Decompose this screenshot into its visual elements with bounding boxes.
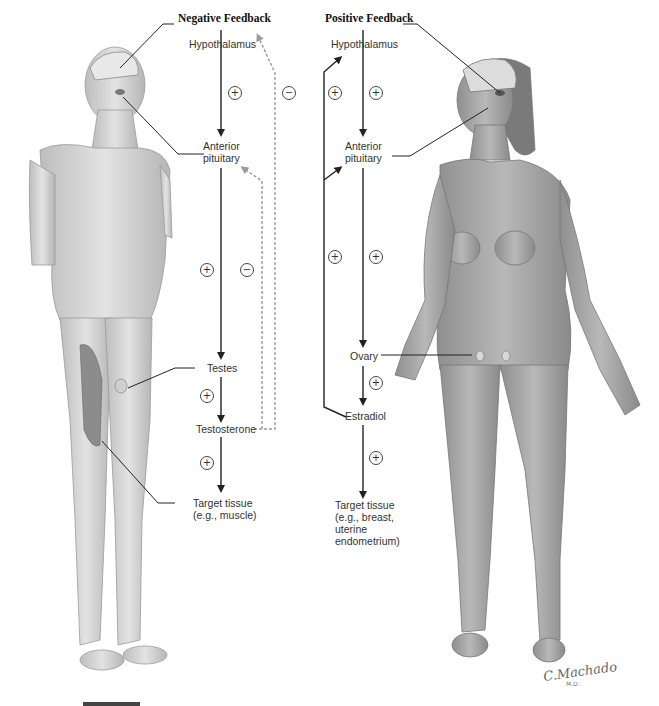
pos-plus-feedback-lower: + bbox=[328, 250, 342, 264]
pos-estradiol-label: Estradiol bbox=[345, 410, 386, 423]
male-figure bbox=[29, 47, 172, 670]
pos-plus-feedback-upper: + bbox=[328, 86, 342, 100]
negative-feedback-title: Negative Feedback bbox=[178, 12, 271, 24]
diagram-graphics bbox=[0, 0, 659, 706]
pos-target-label-3: uterine bbox=[335, 523, 367, 536]
neg-plus-testes-testosterone: + bbox=[200, 389, 214, 403]
neg-target-label-1: Target tissue bbox=[193, 497, 253, 510]
pos-target-label-2: (e.g., breast, bbox=[335, 511, 394, 524]
pos-anterior-label: Anterior bbox=[345, 140, 382, 153]
neg-testes-label: Testes bbox=[207, 362, 237, 375]
neg-hypothalamus-label: Hypothalamus bbox=[189, 38, 256, 51]
pos-hypothalamus-label: Hypothalamus bbox=[331, 38, 398, 51]
female-ovary-right bbox=[502, 351, 510, 361]
neg-minus-to-hypothalamus: − bbox=[282, 86, 296, 100]
pos-plus-ovary-estradiol: + bbox=[369, 376, 383, 390]
male-hypothalamus-marker bbox=[115, 89, 125, 95]
feedback-diagram: Negative Feedback Positive Feedback Hypo… bbox=[0, 0, 659, 706]
neg-plus-hypo-pit: + bbox=[228, 86, 242, 100]
pos-plus-pit-ovary: + bbox=[369, 250, 383, 264]
artist-signature-suffix: M.D. bbox=[566, 680, 580, 687]
neg-testosterone-label: Testosterone bbox=[196, 423, 256, 436]
positive-feedback-title: Positive Feedback bbox=[325, 12, 413, 24]
pos-target-label-4: endometrium) bbox=[335, 535, 400, 548]
male-testes bbox=[115, 379, 127, 393]
pos-ovary-label: Ovary bbox=[350, 350, 378, 363]
female-figure bbox=[395, 58, 640, 662]
caption-bar bbox=[83, 702, 140, 706]
neg-anterior-label: Anterior bbox=[203, 140, 240, 153]
pos-plus-estradiol-target: + bbox=[369, 451, 383, 465]
female-brain bbox=[463, 59, 516, 92]
neg-plus-testosterone-target: + bbox=[200, 456, 214, 470]
pos-pituitary-label: pituitary bbox=[345, 152, 382, 165]
female-ovary-left bbox=[476, 351, 484, 361]
neg-target-label-2: (e.g., muscle) bbox=[193, 509, 257, 522]
negative-feedback-dashed bbox=[243, 36, 275, 429]
neg-plus-pit-testes: + bbox=[200, 263, 214, 277]
neg-pituitary-label: pituitary bbox=[203, 152, 240, 165]
pos-target-label-1: Target tissue bbox=[335, 499, 395, 512]
pos-plus-hypo-pit: + bbox=[369, 86, 383, 100]
neg-minus-to-pituitary: − bbox=[240, 263, 254, 277]
